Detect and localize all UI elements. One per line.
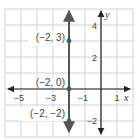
- x-tick-label: −1: [78, 93, 88, 103]
- x-tick-label: −5: [14, 93, 24, 103]
- point-label-neg2-3: (−2, 3): [36, 32, 65, 43]
- y-axis-label: y: [104, 9, 110, 20]
- y-tick-label: −2: [87, 116, 97, 126]
- x-axis-label: x: [123, 92, 129, 103]
- x-tick-label: 1: [114, 93, 119, 103]
- coordinate-plane: (−2, 3) (−2, 0) (−2, −2) −5 −3 −1 1 4 2 …: [0, 0, 140, 140]
- point-neg2-neg2: [67, 119, 72, 124]
- x-tick-label: −3: [46, 93, 56, 103]
- point-neg2-0: [67, 87, 72, 92]
- y-tick-label: 2: [92, 53, 97, 63]
- y-tick-label: 4: [92, 21, 97, 31]
- point-neg2-3: [67, 39, 72, 44]
- point-label-neg2-neg2: (−2, −2): [30, 108, 65, 119]
- point-label-neg2-0: (−2, 0): [36, 77, 65, 88]
